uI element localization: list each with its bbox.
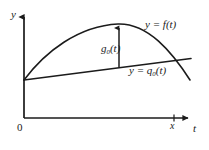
origin-label: 0 bbox=[17, 122, 23, 133]
curve-f-label: y = f(t) bbox=[145, 19, 176, 30]
function-approximation-diagram: y t 0 x y = f(t) g0(t) y = q0(t) bbox=[0, 0, 209, 150]
line-q0-label-arg: (t) bbox=[156, 64, 166, 76]
curve-f-label-arg: (t) bbox=[166, 18, 176, 30]
y-axis-label: y bbox=[11, 9, 16, 20]
line-q0-label: y = q0(t) bbox=[129, 65, 166, 78]
x-tick-label: x bbox=[170, 121, 174, 131]
gap-g0-label-arg: (t) bbox=[110, 42, 120, 54]
diagram-canvas bbox=[0, 0, 209, 150]
t-axis-label: t bbox=[193, 123, 196, 134]
line-q0-label-base: y = q bbox=[129, 64, 152, 76]
curve-f-label-lhs: y = f bbox=[145, 18, 166, 30]
gap-g0-label: g0(t) bbox=[101, 43, 120, 56]
